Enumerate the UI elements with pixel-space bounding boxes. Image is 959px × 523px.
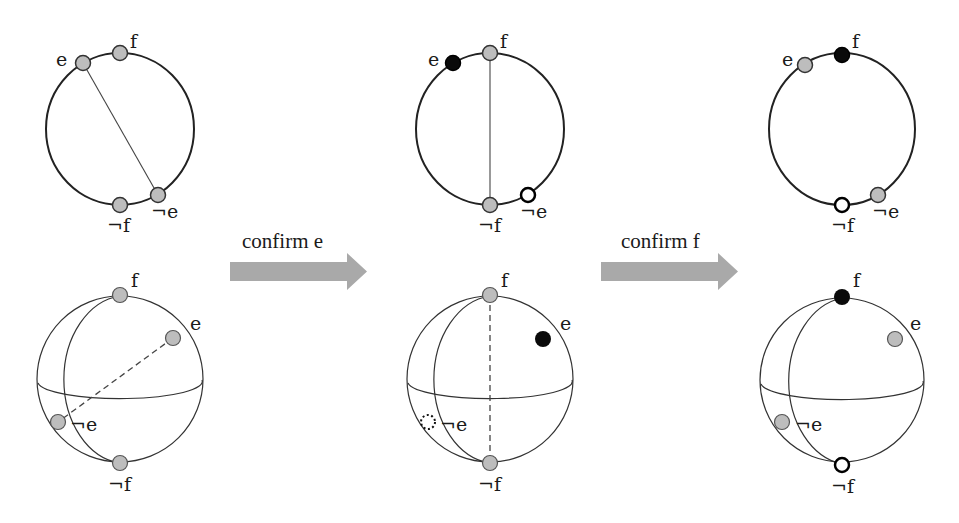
chord-e-not-e — [83, 63, 158, 195]
bloch-sphere — [760, 298, 924, 462]
point-f — [835, 48, 850, 63]
label-not-e: ¬e — [795, 413, 822, 435]
label-not-f: ¬f — [108, 473, 133, 495]
point-not-f — [113, 456, 128, 471]
label-f: f — [501, 269, 510, 291]
point-e — [798, 58, 813, 73]
label-not-e: ¬e — [872, 200, 899, 222]
meridian — [64, 296, 120, 463]
stage-2-sphere: f e ¬e ¬f — [407, 269, 573, 495]
label-not-e: ¬e — [520, 200, 547, 222]
label-not-e: ¬e — [151, 200, 178, 222]
label-not-f: ¬f — [478, 473, 503, 495]
label-not-f: ¬f — [478, 214, 503, 236]
point-f — [834, 289, 850, 305]
label-not-f: ¬f — [107, 214, 132, 236]
point-e — [446, 56, 461, 71]
right-arrow-icon — [601, 253, 738, 290]
stage-3-circle: e f ¬f ¬e — [769, 30, 915, 236]
arrow-confirm-f: confirm f — [601, 229, 738, 290]
point-f — [113, 46, 128, 61]
point-e — [888, 332, 903, 347]
arrow-label: confirm f — [621, 229, 700, 253]
point-e — [166, 331, 181, 346]
point-not-e — [775, 415, 790, 430]
stage-2-circle: e f ¬f ¬e — [416, 30, 564, 236]
label-e: e — [56, 48, 67, 70]
equator — [38, 380, 202, 399]
label-e: e — [190, 312, 201, 334]
point-not-f — [483, 198, 498, 213]
meridian — [789, 298, 842, 464]
point-not-f — [835, 458, 849, 472]
equator — [761, 381, 923, 400]
label-not-f: ¬f — [831, 475, 856, 497]
label-not-f: ¬f — [831, 214, 856, 236]
point-f — [483, 288, 498, 303]
point-not-e — [51, 415, 66, 430]
axis-e-not-e — [58, 338, 173, 422]
label-e: e — [428, 48, 439, 70]
label-e: e — [782, 48, 793, 70]
label-not-e: ¬e — [70, 413, 97, 435]
label-not-e: ¬e — [440, 413, 467, 435]
arrow-label: confirm e — [242, 229, 323, 253]
label-f: f — [852, 30, 861, 52]
point-f — [483, 46, 498, 61]
label-f: f — [853, 269, 862, 291]
diagram-canvas: e f ¬f ¬e f e ¬e ¬f confirm e e f ¬f ¬e — [0, 0, 959, 523]
stage-1-circle: e f ¬f ¬e — [46, 30, 194, 236]
label-f: f — [130, 30, 139, 52]
point-e — [76, 56, 91, 71]
label-f: f — [131, 269, 140, 291]
point-not-f — [113, 198, 128, 213]
point-not-f — [835, 198, 849, 212]
label-e: e — [560, 312, 571, 334]
label-e: e — [910, 312, 921, 334]
label-f: f — [500, 30, 509, 52]
point-e — [535, 331, 551, 347]
point-f — [113, 288, 128, 303]
stage-1-sphere: f e ¬e ¬f — [37, 269, 203, 495]
right-arrow-icon — [230, 253, 367, 290]
point-not-e — [421, 415, 435, 429]
point-not-f — [483, 456, 498, 471]
stage-3-sphere: f e ¬e ¬f — [760, 269, 924, 497]
meridian — [434, 296, 490, 463]
arrow-confirm-e: confirm e — [230, 229, 367, 290]
state-circle — [769, 53, 915, 205]
bloch-sphere — [37, 296, 203, 462]
